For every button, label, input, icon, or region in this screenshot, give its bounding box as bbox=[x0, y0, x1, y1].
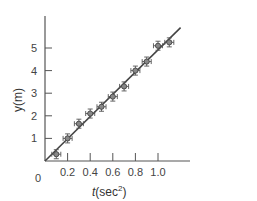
data-point bbox=[86, 109, 95, 118]
data-point bbox=[165, 38, 174, 47]
x-tick-label: 1.0 bbox=[150, 166, 165, 178]
data-point bbox=[120, 82, 129, 91]
data-point bbox=[52, 150, 61, 159]
y-tick-label: 2 bbox=[31, 110, 37, 122]
x-tick-label: 0.4 bbox=[83, 166, 98, 178]
x-ticks: 0.20.40.60.81.0 bbox=[60, 153, 166, 178]
y-tick-label: 4 bbox=[31, 65, 37, 77]
y-tick-label: 5 bbox=[31, 42, 37, 54]
data-point bbox=[131, 66, 140, 75]
y-tick-label: 1 bbox=[31, 132, 37, 144]
y-tick-label: 3 bbox=[31, 87, 37, 99]
data-points bbox=[52, 38, 174, 159]
y-ticks: 12345 bbox=[31, 42, 52, 144]
origin-label: 0 bbox=[35, 172, 41, 184]
data-point bbox=[153, 41, 162, 50]
x-tick-label: 0.6 bbox=[105, 166, 120, 178]
data-point bbox=[108, 92, 117, 101]
data-point bbox=[97, 102, 106, 111]
x-axis-label: t(sec2) bbox=[92, 184, 126, 199]
data-point bbox=[74, 119, 83, 128]
x-tick-label: 0.8 bbox=[128, 166, 143, 178]
y-axis-label: y(m) bbox=[11, 88, 25, 112]
scatter-chart: 0.20.40.60.81.0 12345 0 t(sec2) y(m) bbox=[0, 0, 257, 201]
x-tick-label: 0.2 bbox=[60, 166, 75, 178]
